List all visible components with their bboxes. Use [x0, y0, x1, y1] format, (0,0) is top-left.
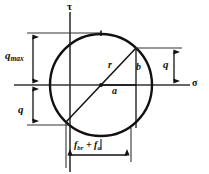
right-dimension-group — [136, 48, 182, 81]
label-bottom-base-sub: br — [77, 144, 83, 151]
vertical-axis-label: τ — [67, 1, 72, 12]
diagram-canvas — [0, 0, 209, 174]
horizontal-axis-label: σ — [192, 78, 197, 88]
label-bottom-second-sub: a — [97, 144, 100, 151]
axis-lines — [14, 12, 190, 172]
label-b: b — [136, 62, 141, 72]
label-q-left: q — [18, 104, 24, 115]
label-bottom-dimension: fbr + fa — [74, 140, 101, 150]
mohr-circle-figure: τ σ qmax q q r b a fbr + fa — [0, 0, 209, 174]
label-bottom-plus: + — [83, 139, 94, 150]
label-q-right: q — [163, 59, 169, 70]
label-q-max: qmax — [5, 50, 24, 61]
label-q-max-sub: max — [11, 54, 24, 63]
label-radius: r — [108, 60, 112, 70]
left-dimension-group — [27, 33, 101, 125]
label-q-max-base: q — [5, 49, 11, 61]
label-a: a — [112, 86, 117, 96]
